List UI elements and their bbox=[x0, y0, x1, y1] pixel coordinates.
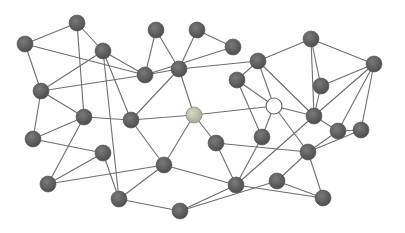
edge-H-I bbox=[179, 61, 258, 69]
node-S bbox=[306, 108, 322, 124]
node-P bbox=[123, 112, 139, 128]
network-diagram bbox=[0, 0, 405, 233]
node-N bbox=[33, 83, 49, 99]
node-Y bbox=[353, 122, 369, 138]
node-X bbox=[330, 123, 346, 139]
edge-K-X bbox=[338, 64, 374, 131]
edge-Q-R bbox=[194, 106, 274, 115]
edge-F-G bbox=[145, 47, 233, 75]
node-V bbox=[208, 135, 224, 151]
edge-P-Q bbox=[131, 115, 194, 120]
node-R bbox=[266, 98, 282, 114]
node-O bbox=[76, 109, 92, 125]
node-AA bbox=[300, 144, 316, 160]
edge-A-B bbox=[25, 23, 77, 44]
node-H bbox=[171, 61, 187, 77]
node-AE bbox=[269, 173, 285, 189]
edge-AD-AF bbox=[180, 185, 236, 211]
node-M bbox=[313, 78, 329, 94]
edge-J-K bbox=[311, 39, 374, 64]
edge-A-O bbox=[77, 23, 84, 117]
node-AF bbox=[172, 203, 188, 219]
edge-I-J bbox=[258, 39, 311, 61]
node-B bbox=[17, 36, 33, 52]
edge-Z-AC bbox=[119, 165, 164, 199]
node-A bbox=[69, 15, 85, 31]
node-J bbox=[303, 31, 319, 47]
node-Z bbox=[156, 157, 172, 173]
edge-G-N bbox=[41, 75, 145, 91]
node-AD bbox=[228, 177, 244, 193]
edge-B-G bbox=[25, 44, 145, 75]
node-W bbox=[254, 129, 270, 145]
node-L bbox=[229, 72, 245, 88]
edge-C-N bbox=[41, 51, 103, 91]
edge-P-Z bbox=[131, 120, 164, 165]
node-F bbox=[225, 39, 241, 55]
edge-K-M bbox=[321, 64, 374, 86]
edge-O-T bbox=[33, 117, 84, 139]
node-E bbox=[189, 22, 205, 38]
node-K bbox=[366, 56, 382, 72]
node-AC bbox=[111, 191, 127, 207]
edge-Q-Z bbox=[164, 115, 194, 165]
node-AB bbox=[40, 176, 56, 192]
edge-Z-AD bbox=[164, 165, 236, 185]
node-Q bbox=[186, 107, 202, 123]
node-I bbox=[250, 53, 266, 69]
node-T bbox=[25, 131, 41, 147]
node-U bbox=[95, 145, 111, 161]
node-D bbox=[148, 22, 164, 38]
edge-T-U bbox=[33, 139, 103, 153]
edge-AF-AC bbox=[119, 199, 180, 211]
node-C bbox=[95, 43, 111, 59]
node-AG bbox=[315, 190, 331, 206]
node-G bbox=[137, 67, 153, 83]
